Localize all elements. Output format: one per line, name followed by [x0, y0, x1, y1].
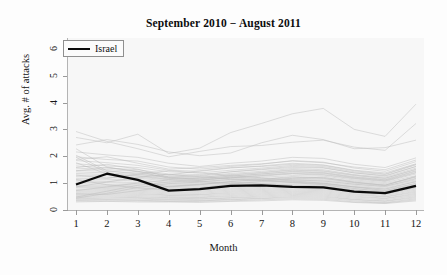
x-tick-mark [200, 210, 201, 215]
x-tick-label: 2 [96, 218, 118, 229]
x-tick-mark [354, 210, 355, 215]
legend[interactable]: Israel [63, 40, 124, 57]
y-tick-label: 2 [48, 149, 59, 163]
x-tick-label: 7 [251, 218, 273, 229]
background-series-group [76, 104, 416, 203]
x-tick-label: 1 [65, 218, 87, 229]
x-axis-title: Month [0, 242, 447, 253]
x-tick-label: 5 [189, 218, 211, 229]
x-tick-mark [76, 210, 77, 215]
x-tick-label: 6 [220, 218, 242, 229]
page-title: September 2010 − August 2011 [0, 17, 447, 29]
x-tick-label: 4 [158, 218, 180, 229]
x-tick-mark [262, 210, 263, 215]
x-tick-label: 8 [281, 218, 303, 229]
x-tick-mark [169, 210, 170, 215]
x-tick-mark [323, 210, 324, 215]
x-tick-label: 10 [343, 218, 365, 229]
x-tick-mark [231, 210, 232, 215]
x-tick-mark [292, 210, 293, 215]
chart-figure: September 2010 − August 2011 Avg. # of a… [0, 0, 447, 275]
y-tick-label: 6 [48, 41, 59, 55]
series-line [76, 135, 416, 155]
y-tick-label: 4 [48, 95, 59, 109]
x-tick-mark [385, 210, 386, 215]
series-canvas [68, 38, 424, 210]
x-tick-label: 11 [374, 218, 396, 229]
y-tick-label: 3 [48, 122, 59, 136]
x-tick-mark [107, 210, 108, 215]
legend-line-swatch-israel [68, 48, 90, 50]
x-tick-mark [138, 210, 139, 215]
y-axis-title: Avg. # of attacks [20, 25, 31, 155]
legend-label-israel: Israel [95, 44, 117, 54]
series-line [76, 123, 416, 156]
x-tick-label: 9 [312, 218, 334, 229]
y-tick-label: 5 [48, 68, 59, 82]
x-axis: 123456789101112 [68, 210, 424, 236]
y-tick-label: 1 [48, 176, 59, 190]
x-tick-label: 12 [405, 218, 427, 229]
x-tick-mark [416, 210, 417, 215]
x-tick-label: 3 [127, 218, 149, 229]
plot-area [68, 38, 424, 210]
y-tick-label: 0 [48, 203, 59, 217]
